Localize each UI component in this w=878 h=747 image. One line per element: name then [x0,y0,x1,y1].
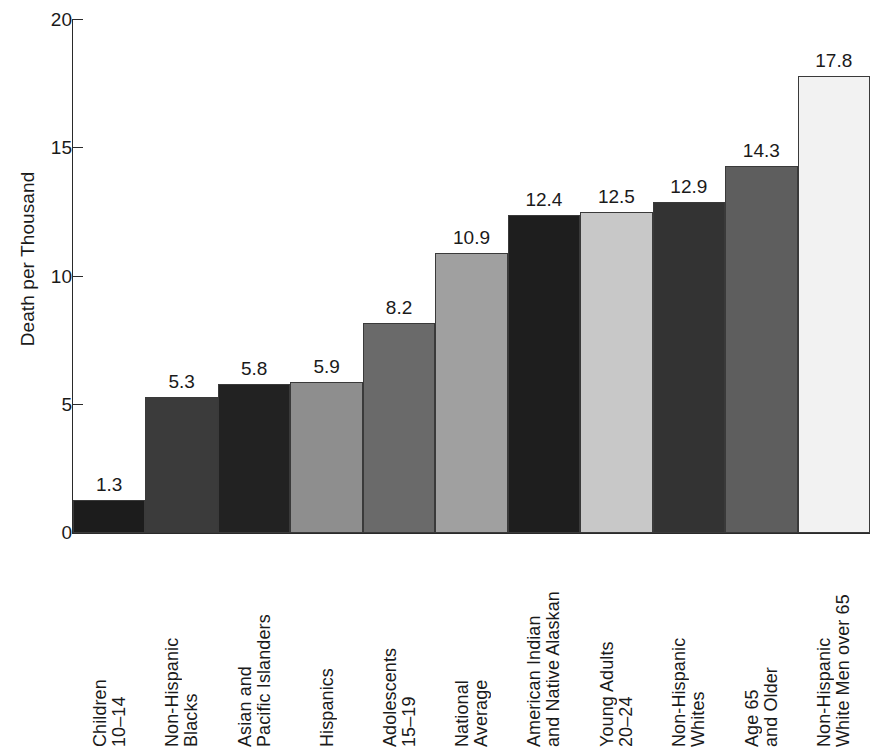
bar-value-label: 5.3 [145,372,217,391]
bar-value-label: 17.8 [798,51,870,70]
x-axis-label-line: Blacks [182,536,200,747]
bar[interactable] [145,397,217,533]
x-axis-label: Adolescents15–19 [363,536,435,747]
x-axis-label: Non-HispanicBlacks [145,536,217,747]
x-axis-labels: Children10–14Non-HispanicBlacksAsian and… [73,536,870,747]
x-axis-label-line: American Indian [525,536,543,747]
x-axis-label-line: Age 65 [743,536,761,747]
x-axis-label-line: and Native Alaskan [544,536,562,747]
bar-value-label: 5.9 [290,357,362,376]
y-axis-ticks: 05101520 [14,0,72,747]
x-axis-label-line: Non-Hispanic [163,536,181,747]
x-axis-label-line: 15–19 [400,536,418,747]
x-axis-label-line: 10–14 [110,536,128,747]
bar[interactable] [290,382,362,533]
x-axis-label-line: Whites [689,536,707,747]
bar[interactable] [508,215,580,533]
x-axis-label-line: Non-Hispanic [815,536,833,747]
bar[interactable] [435,253,507,533]
bar-value-label: 12.4 [508,190,580,209]
x-axis-label-line: 20–24 [617,536,635,747]
x-axis-label-line: Non-Hispanic [670,536,688,747]
bar-value-label: 12.5 [580,187,652,206]
bar-value-label: 1.3 [73,475,145,494]
x-axis-label: Age 65and Older [725,536,797,747]
bar-value-label: 14.3 [725,141,797,160]
bar[interactable] [218,384,290,533]
plot-area: 1.35.35.85.98.210.912.412.512.914.317.8 [73,20,870,533]
bar[interactable] [363,323,435,533]
bar[interactable] [73,500,145,533]
bar[interactable] [580,212,652,533]
x-axis-label-line: Children [91,536,109,747]
bar[interactable] [725,166,797,533]
bar[interactable] [798,76,870,533]
bar[interactable] [653,202,725,533]
x-axis-label: Young Adults20–24 [580,536,652,747]
bar-value-label: 5.8 [218,359,290,378]
x-axis-label-line: Pacific Islanders [255,536,273,747]
x-axis-label-line: Young Adults [598,536,616,747]
x-axis-label-line: Adolescents [381,536,399,747]
x-axis-line [72,533,870,534]
x-axis-label-line: National [453,536,471,747]
x-axis-label-line: Hispanics [318,536,336,747]
y-tick-label: 10 [28,267,72,286]
bar-value-label: 12.9 [653,177,725,196]
x-axis-label-line: Average [472,536,490,747]
x-axis-label-line: White Men over 65 [834,536,852,747]
x-axis-label: Children10–14 [73,536,145,747]
x-axis-label-line: and Older [762,536,780,747]
y-tick-label: 15 [28,138,72,157]
y-tick-label: 5 [28,395,72,414]
x-axis-label: Hispanics [290,536,362,747]
x-axis-label-line: Asian and [236,536,254,747]
x-axis-label: Asian andPacific Islanders [218,536,290,747]
bar-value-label: 10.9 [435,228,507,247]
y-tick-label: 0 [28,523,72,542]
bar-value-label: 8.2 [363,298,435,317]
x-axis-label: NationalAverage [435,536,507,747]
bar-chart: Death per Thousand 05101520 1.35.35.85.9… [0,0,878,747]
x-axis-label: Non-HispanicWhites [653,536,725,747]
y-tick-label: 20 [28,10,72,29]
x-axis-label: American Indianand Native Alaskan [508,536,580,747]
x-axis-label: Non-HispanicWhite Men over 65 [798,536,870,747]
